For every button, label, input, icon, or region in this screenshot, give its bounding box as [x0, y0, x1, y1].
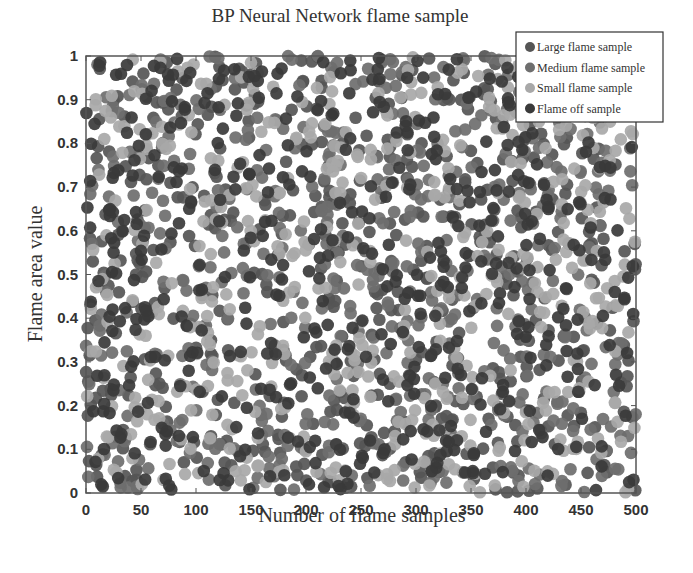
data-point [357, 242, 370, 255]
data-point [205, 248, 218, 261]
data-point [299, 244, 312, 257]
data-point [209, 164, 222, 177]
data-point [241, 401, 254, 414]
data-point [524, 352, 537, 365]
data-point [338, 282, 351, 295]
data-point [81, 201, 94, 214]
x-tick-label: 50 [133, 501, 150, 518]
data-point [484, 72, 497, 85]
data-point [248, 70, 261, 83]
data-point [483, 101, 496, 114]
data-point [403, 211, 416, 224]
data-point [142, 462, 155, 475]
data-point [298, 215, 311, 228]
data-point [494, 287, 507, 300]
data-point [572, 363, 585, 376]
data-point [503, 395, 516, 408]
data-point [454, 139, 467, 152]
data-point [588, 379, 601, 392]
data-point [243, 168, 256, 181]
data-point [175, 117, 188, 130]
data-point [320, 362, 333, 375]
data-point [274, 484, 287, 497]
data-point [296, 297, 309, 310]
data-point [280, 112, 293, 125]
data-point [475, 255, 488, 268]
data-point [573, 244, 586, 257]
data-point [224, 350, 237, 363]
data-point [223, 303, 236, 316]
data-point [262, 186, 275, 199]
data-point [173, 416, 186, 429]
data-point [540, 404, 553, 417]
data-point [463, 305, 476, 318]
data-point [315, 223, 328, 236]
data-point [524, 405, 537, 418]
data-point [158, 354, 171, 367]
data-point [352, 366, 365, 379]
data-point [502, 308, 515, 321]
data-point [201, 335, 214, 348]
data-point [220, 288, 233, 301]
data-point [456, 391, 469, 404]
data-point [619, 409, 632, 422]
data-point [489, 164, 502, 177]
data-point [108, 236, 121, 249]
data-point [322, 249, 335, 262]
data-point [571, 313, 584, 326]
data-point [336, 217, 349, 230]
data-point [425, 465, 438, 478]
data-point [116, 225, 129, 238]
data-point [599, 253, 612, 266]
data-point [490, 184, 503, 197]
data-point [129, 391, 142, 404]
data-point [375, 328, 388, 341]
data-point [557, 217, 570, 230]
data-point [582, 136, 595, 149]
data-point [104, 203, 117, 216]
data-point [198, 465, 211, 478]
data-point [291, 90, 304, 103]
data-point [488, 337, 501, 350]
data-point [239, 444, 252, 457]
data-point [547, 288, 560, 301]
data-point [332, 480, 345, 493]
data-point [154, 227, 167, 240]
data-point [303, 125, 316, 138]
data-point [240, 134, 253, 147]
data-point [150, 257, 163, 270]
data-point [511, 328, 524, 341]
data-point [425, 400, 438, 413]
data-point [166, 277, 179, 290]
data-point [465, 321, 478, 334]
data-point [425, 148, 438, 161]
data-point [629, 235, 642, 248]
data-point [159, 210, 172, 223]
data-point [110, 267, 123, 280]
data-point [185, 404, 198, 417]
data-point [137, 67, 150, 80]
data-point [523, 264, 536, 277]
y-tick-label: 0.8 [57, 134, 78, 151]
data-point [174, 380, 187, 393]
data-point [255, 125, 268, 138]
data-point [273, 289, 286, 302]
data-point [98, 443, 111, 456]
data-point [340, 465, 353, 478]
data-point [367, 106, 380, 119]
data-point [333, 384, 346, 397]
data-point [463, 196, 476, 209]
data-point [428, 131, 441, 144]
data-point [344, 300, 357, 313]
data-point [432, 237, 445, 250]
data-point [585, 254, 598, 267]
data-point [309, 435, 322, 448]
data-point [433, 424, 446, 437]
data-point [419, 116, 432, 129]
data-point [541, 469, 554, 482]
data-point [561, 370, 574, 383]
data-point [566, 261, 579, 274]
data-point [101, 289, 114, 302]
data-point [179, 103, 192, 116]
data-point [295, 390, 308, 403]
